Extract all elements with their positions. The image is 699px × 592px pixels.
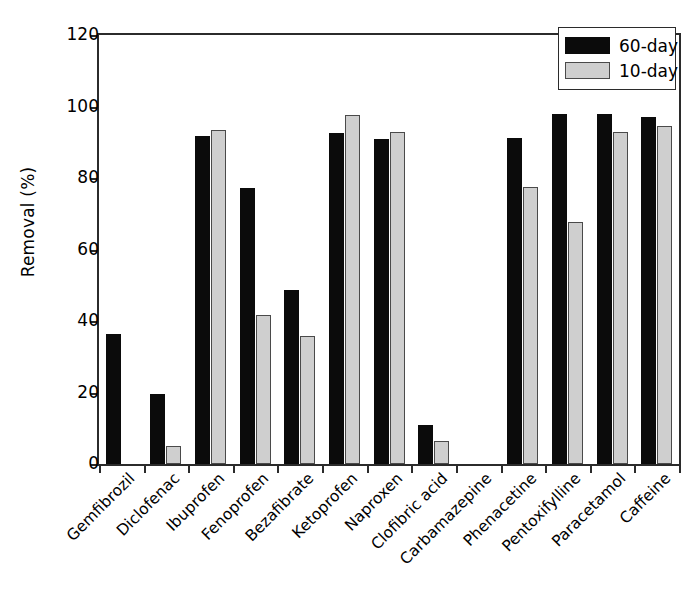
bar-60-day-caffeine — [641, 117, 656, 464]
gray-swatch-icon — [565, 62, 610, 79]
bar-60-day-diclofenac — [150, 394, 165, 464]
bar-60-day-phenacetine — [507, 138, 522, 464]
y-tick-label: 120 — [67, 24, 99, 44]
bar-60-day-gemfibrozil — [106, 334, 121, 464]
bar-60-day-bezafibrate — [284, 290, 299, 464]
bar-10-day-diclofenac — [166, 446, 181, 464]
bar-60-day-ketoprofen — [329, 133, 344, 464]
black-swatch-icon — [565, 37, 610, 54]
plot-area: 020406080100120 — [97, 33, 681, 466]
bar-10-day-fenoprofen — [256, 315, 271, 464]
bar-60-day-ibuprofen — [195, 136, 210, 464]
x-tick-mark — [679, 464, 681, 473]
bar-10-day-paracetamol — [613, 132, 628, 464]
bar-10-day-pentoxifylline — [568, 222, 583, 464]
bar-60-day-paracetamol — [597, 114, 612, 464]
y-tick-label: 40 — [77, 310, 99, 330]
chart-legend: 60-day 10-day — [558, 27, 676, 90]
y-tick-label: 60 — [77, 239, 99, 259]
bar-10-day-clofibric-acid — [434, 441, 449, 464]
bar-10-day-phenacetine — [523, 187, 538, 464]
y-axis-title: Removal (%) — [18, 112, 38, 332]
bar-10-day-bezafibrate — [300, 336, 315, 464]
bar-60-day-naproxen — [374, 139, 389, 464]
legend-item: 10-day — [565, 58, 669, 83]
y-tick-label: 80 — [77, 167, 99, 187]
bar-10-day-caffeine — [657, 126, 672, 464]
bar-10-day-naproxen — [390, 132, 405, 464]
bar-10-day-ketoprofen — [345, 115, 360, 464]
chart-figure: Removal (%) 020406080100120 GemfibrozilD… — [0, 0, 699, 592]
legend-label-10-day: 10-day — [619, 61, 678, 81]
y-tick-label: 20 — [77, 382, 99, 402]
y-tick-label: 100 — [67, 96, 99, 116]
legend-item: 60-day — [565, 33, 669, 58]
bar-60-day-clofibric-acid — [418, 425, 433, 464]
bar-60-day-pentoxifylline — [552, 114, 567, 464]
bar-60-day-fenoprofen — [240, 188, 255, 464]
x-axis-tick-labels: GemfibrozilDiclofenacIbuprofenFenoprofen… — [97, 468, 677, 592]
legend-label-60-day: 60-day — [619, 36, 678, 56]
bar-10-day-ibuprofen — [211, 130, 226, 464]
